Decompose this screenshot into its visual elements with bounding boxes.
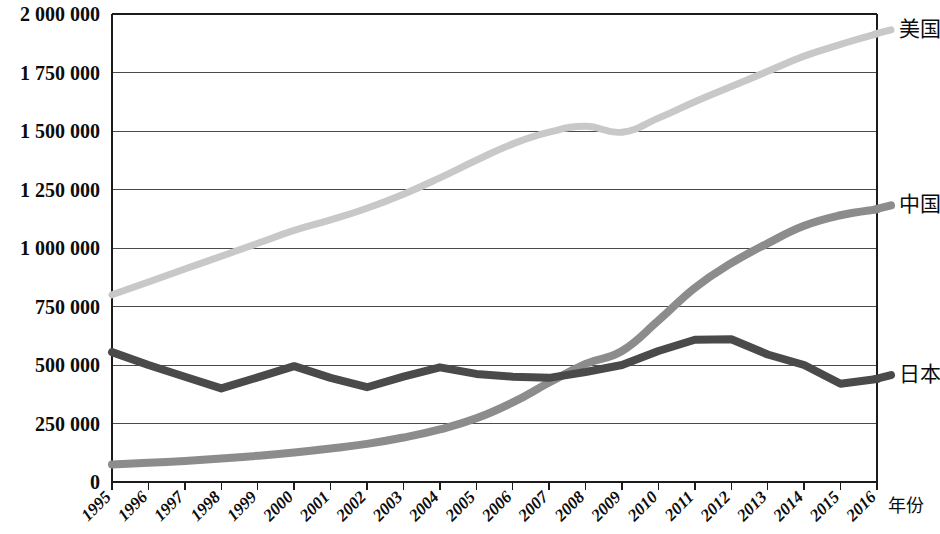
series-label-us: 美国: [899, 17, 940, 41]
series-label-connector-us: [875, 30, 891, 34]
series-label-jp: 日本: [899, 362, 940, 386]
y-tick-label: 250 000: [35, 413, 100, 435]
y-tick-label: 1 750 000: [20, 62, 100, 84]
x-axis-title: 年份: [888, 496, 924, 516]
y-tick-label: 1 500 000: [20, 120, 100, 142]
y-tick-label: 2 000 000: [20, 3, 100, 25]
line-chart: 0250 000500 000750 0001 000 0001 250 000…: [0, 0, 940, 534]
y-tick-label: 750 000: [35, 296, 100, 318]
y-tick-label: 500 000: [35, 354, 100, 376]
series-label-connector-cn: [875, 205, 891, 209]
y-tick-label: 1 250 000: [20, 179, 100, 201]
series-label-connector-jp: [875, 375, 891, 379]
chart-background: [0, 0, 940, 534]
series-label-cn: 中国: [899, 192, 940, 216]
chart-container: 0250 000500 000750 0001 000 0001 250 000…: [0, 0, 940, 534]
y-tick-label: 1 000 000: [20, 237, 100, 259]
